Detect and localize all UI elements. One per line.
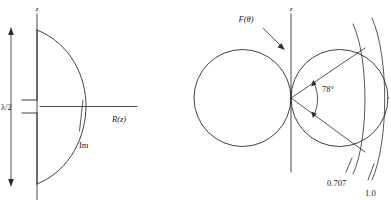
lambda-half-label: λ/2	[1, 102, 12, 112]
right-z-axis-label: z	[289, 5, 293, 13]
f-theta-leader-line	[263, 28, 282, 47]
f-theta-label: F(θ)	[237, 14, 253, 24]
dimension-arrow-down-icon	[8, 179, 14, 187]
im-tick-mark	[80, 100, 84, 131]
left-z-axis-label: z	[35, 5, 39, 13]
arc-0707-amplitude	[353, 24, 365, 174]
figure-root: z λ/2 R(z) Im z 78° F(θ) 0	[0, 0, 391, 200]
half-power-ray-lower	[291, 98, 365, 152]
f-theta-arrow-icon	[278, 43, 286, 50]
r-of-z-label: R(z)	[111, 114, 126, 124]
right-panel-group: z 78° F(θ) 0.707 1.0	[194, 5, 388, 198]
leader-tick-0707	[346, 158, 352, 172]
left-panel-group: z λ/2 R(z) Im	[1, 5, 137, 200]
beamwidth-angle-arc	[314, 82, 318, 116]
dimension-arrow-up-icon	[8, 27, 14, 35]
amplitude-label-0707: 0.707	[327, 178, 347, 188]
resistance-profile-curve	[37, 30, 86, 184]
pattern-lobe-left	[194, 50, 291, 147]
beamwidth-label: 78°	[322, 84, 334, 94]
amplitude-label-10: 1.0	[365, 188, 376, 198]
pattern-lobe-right	[291, 50, 388, 147]
arc-10-amplitude	[372, 18, 385, 180]
im-label: Im	[79, 140, 89, 150]
beamwidth-arrow-lower-icon	[311, 111, 316, 118]
technical-figure: z λ/2 R(z) Im z 78° F(θ) 0	[0, 0, 391, 200]
